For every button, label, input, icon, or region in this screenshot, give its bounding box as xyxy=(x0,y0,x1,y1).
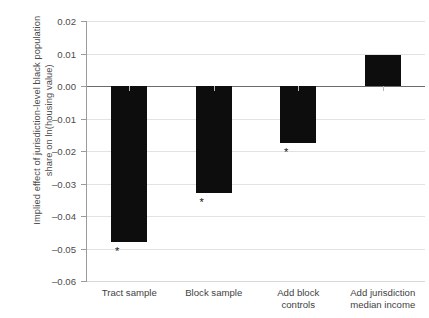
x-axis-category-label: Tract sample xyxy=(84,287,174,299)
x-axis-tick xyxy=(214,86,215,91)
y-axis-tick xyxy=(81,21,86,22)
y-axis-tick-label: –0.05 xyxy=(0,243,76,254)
y-axis-tick-label: –0.02 xyxy=(0,146,76,157)
y-axis-tick xyxy=(81,54,86,55)
y-axis-tick xyxy=(81,86,86,87)
x-axis-tick xyxy=(298,86,299,91)
x-axis-label-line: Add block xyxy=(253,287,343,299)
x-axis-label-line: controls xyxy=(253,299,343,311)
y-axis-tick xyxy=(81,216,86,217)
y-axis-tick-label: 0.01 xyxy=(0,48,76,59)
x-axis-tick xyxy=(383,86,384,91)
y-axis-tick xyxy=(81,151,86,152)
y-axis-tick xyxy=(81,249,86,250)
bar xyxy=(280,86,316,143)
bar xyxy=(111,86,147,242)
y-axis-tick-label: –0.03 xyxy=(0,178,76,189)
y-axis-tick-label: 0.02 xyxy=(0,16,76,27)
y-axis-tick-label: –0.01 xyxy=(0,113,76,124)
bar-chart: Implied effect of jurisdiction-level bla… xyxy=(0,0,429,318)
plot-area xyxy=(87,21,425,281)
bar xyxy=(196,86,232,193)
gridline xyxy=(87,249,425,250)
y-axis-tick-label: –0.04 xyxy=(0,211,76,222)
x-axis-category-label: Add blockcontrols xyxy=(253,287,343,310)
gridline xyxy=(87,281,425,282)
x-axis-tick xyxy=(129,86,130,91)
y-axis-tick xyxy=(81,281,86,282)
x-axis-label-line: Add jurisdiction xyxy=(338,287,428,299)
x-axis-label-line: Block sample xyxy=(169,287,259,299)
y-axis-tick xyxy=(81,119,86,120)
bar xyxy=(365,55,401,86)
x-axis-category-label: Block sample xyxy=(169,287,259,299)
gridline xyxy=(87,21,425,22)
x-axis-category-label: Add jurisdictionmedian income xyxy=(338,287,428,310)
y-axis-tick xyxy=(81,184,86,185)
y-axis-tick-label: –0.06 xyxy=(0,276,76,287)
x-axis-label-line: Tract sample xyxy=(84,287,174,299)
significance-marker: * xyxy=(284,147,288,158)
significance-marker: * xyxy=(200,197,204,208)
significance-marker: * xyxy=(115,246,119,257)
x-axis-label-line: median income xyxy=(338,299,428,311)
y-axis-tick-label: 0.00 xyxy=(0,81,76,92)
